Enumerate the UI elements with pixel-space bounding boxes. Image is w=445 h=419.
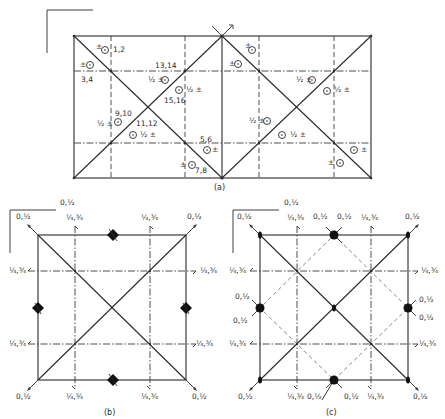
twofold-axis-icon bbox=[258, 377, 262, 384]
atom-symbol bbox=[204, 147, 211, 154]
fourfold-axis-icon bbox=[404, 304, 413, 313]
atom-symbol bbox=[324, 88, 331, 95]
atom-symbol bbox=[351, 147, 358, 154]
atom-symbol bbox=[249, 47, 256, 54]
panel-a bbox=[47, 10, 372, 180]
atom-symbol bbox=[337, 160, 344, 167]
fourfold-axis-icon bbox=[330, 376, 339, 385]
twofold-axis-icon bbox=[406, 377, 410, 384]
atom-symbol bbox=[115, 119, 122, 126]
twofold-axis-icon bbox=[406, 232, 410, 239]
atom-symbol bbox=[264, 118, 271, 125]
atom-symbol bbox=[162, 77, 169, 84]
atom-symbol bbox=[130, 132, 137, 139]
origin-bracket bbox=[47, 10, 93, 53]
atom-symbol bbox=[309, 77, 316, 84]
fourfold-axis-icon bbox=[330, 231, 339, 240]
panel-b bbox=[10, 210, 197, 391]
panel-c bbox=[233, 210, 419, 400]
arrow-line bbox=[212, 26, 222, 36]
atom-symbol bbox=[87, 62, 94, 69]
space-group-diagram bbox=[0, 0, 445, 419]
atom-symbol bbox=[189, 162, 196, 169]
twofold-axis-icon bbox=[332, 305, 336, 312]
atom-symbol bbox=[102, 47, 109, 54]
atom-symbol bbox=[235, 61, 242, 68]
arrow-line bbox=[222, 26, 232, 36]
twofold-axis-icon bbox=[258, 232, 262, 239]
fourfold-axis-icon bbox=[256, 304, 265, 313]
atom-symbol bbox=[176, 87, 183, 94]
atom-symbol bbox=[279, 132, 286, 139]
